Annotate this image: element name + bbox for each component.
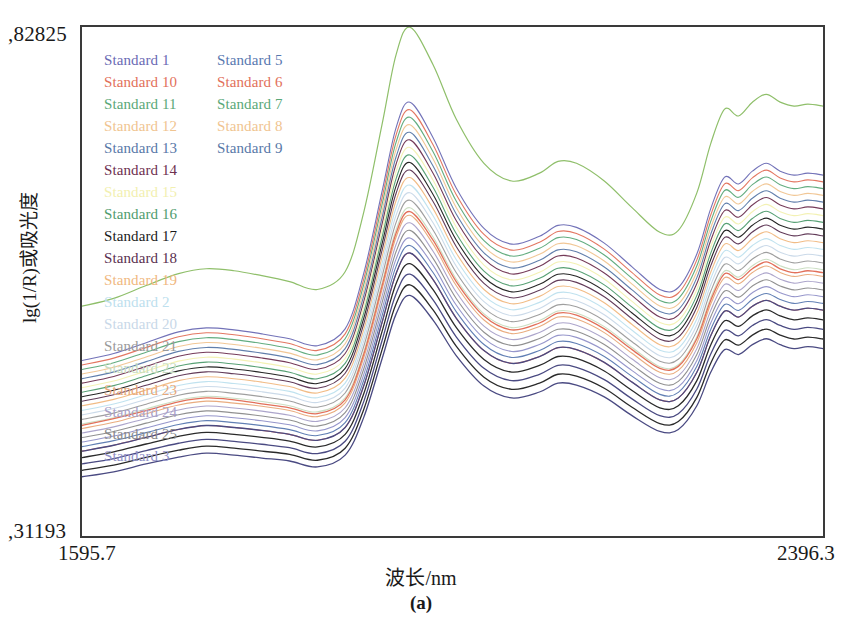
y-axis-title: lg(1/R)或吸光度	[14, 168, 41, 348]
plot-area: Standard 1Standard 10Standard 11Standard…	[80, 25, 825, 538]
spectrum-line	[82, 140, 823, 383]
figure-container: ,82825 ,31193 1595.7 2396.3 lg(1/R)或吸光度 …	[0, 0, 842, 617]
x-axis-title: 波长/nm	[0, 562, 842, 591]
figure-caption: (a)	[0, 592, 842, 614]
spectra-plot	[82, 27, 823, 536]
y-axis-max-label: ,82825	[8, 22, 67, 47]
